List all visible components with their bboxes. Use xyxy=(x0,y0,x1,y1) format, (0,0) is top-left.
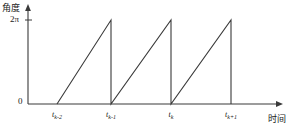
chart-plot-area xyxy=(0,0,298,130)
x-tick-label-k-minus-1: tk-1 xyxy=(106,110,116,119)
y-axis-arrow-icon xyxy=(25,4,31,11)
x-tick-label-k: tk xyxy=(169,110,174,119)
sawtooth-phase-chart: 角度 时间 2π 0 tk-2 tk-1 tk tk+1 xyxy=(0,0,298,130)
x-tick-label-k-minus-2: tk-2 xyxy=(52,110,62,119)
x-tick-label-k-plus-1: tk+1 xyxy=(225,110,237,119)
x-axis-arrow-icon xyxy=(276,101,283,107)
sawtooth-waveform-curve xyxy=(57,20,231,104)
y-axis-title: 角度 xyxy=(2,1,20,14)
x-tick-sub-k-minus-1: k-1 xyxy=(108,114,116,120)
y-tick-label-2pi: 2π xyxy=(10,14,19,24)
x-axis-title: 时间 xyxy=(268,112,286,125)
x-tick-sub-k-plus-1: k+1 xyxy=(227,114,237,120)
x-tick-sub-k: k xyxy=(171,114,174,120)
x-tick-sub-k-minus-2: k-2 xyxy=(54,114,62,120)
origin-label: 0 xyxy=(18,96,23,106)
